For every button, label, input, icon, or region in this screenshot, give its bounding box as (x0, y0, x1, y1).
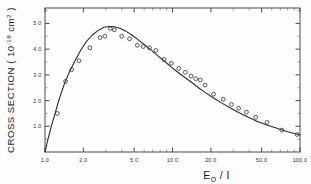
data-point (135, 43, 139, 47)
y-tick-label: 4.0 (33, 46, 41, 52)
y-tick-label: 5.0 (33, 20, 41, 26)
plot-frame (45, 8, 300, 152)
y-axis-title: CROSS SECTION ( 10-18 cm2 ) (5, 7, 16, 153)
cross-section-chart: 1.02.05.010.020.050.0100.01.02.03.04.05.… (0, 0, 311, 184)
x-tick-label: 2.0 (79, 157, 87, 163)
data-point (254, 115, 258, 119)
data-point (212, 92, 216, 96)
data-point (194, 77, 198, 81)
figure-panel: 1.02.05.010.020.050.0100.01.02.03.04.05.… (0, 0, 311, 184)
data-point (265, 121, 269, 125)
y-tick-label: 2.0 (33, 98, 41, 104)
data-point (120, 34, 124, 38)
data-point (237, 106, 241, 110)
fit-curve (45, 27, 300, 152)
data-point (88, 46, 92, 50)
data-point (141, 45, 145, 49)
data-point (103, 34, 107, 38)
y-tick-label: 3.0 (33, 72, 41, 78)
x-axis-title: EO / I (203, 169, 230, 183)
x-tick-label: 10.0 (167, 157, 179, 163)
data-point (98, 36, 102, 40)
data-point (108, 27, 112, 31)
x-tick-label: 1.0 (41, 157, 49, 163)
data-point (230, 103, 234, 107)
y-tick-label: 1.0 (33, 123, 41, 129)
x-tick-label: 20.0 (205, 157, 217, 163)
data-point (128, 37, 132, 41)
data-point (183, 70, 187, 74)
data-point (55, 112, 59, 116)
data-point (177, 67, 181, 71)
data-point (169, 61, 173, 65)
data-point (198, 78, 202, 82)
data-point (77, 59, 81, 63)
data-points-layer (55, 27, 299, 137)
data-point (203, 83, 207, 87)
data-point (154, 49, 158, 53)
x-tick-label: 100.0 (293, 157, 308, 163)
axis-labels-layer: 1.02.05.010.020.050.0100.01.02.03.04.05.… (5, 7, 308, 183)
axes-layer (45, 8, 300, 152)
x-tick-label: 50.0 (256, 157, 268, 163)
data-point (112, 28, 116, 32)
data-point (221, 97, 225, 101)
x-tick-label: 5.0 (130, 157, 138, 163)
data-point (189, 74, 193, 78)
data-point (245, 110, 249, 114)
fit-curve-layer (45, 27, 300, 152)
